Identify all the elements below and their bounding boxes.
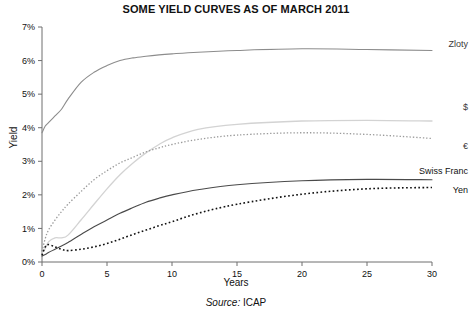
chart-plot-area: 0%1%2%3%4%5%6%7%051015202530 Zloty$€Swis… — [0, 0, 472, 315]
y-tick-label: 5% — [22, 89, 35, 99]
y-tick-label: 4% — [22, 123, 35, 133]
series-line- — [42, 133, 432, 252]
series-labels-group: Zloty$€Swiss FrancYen — [419, 39, 469, 195]
source-prefix: Source: — [206, 297, 240, 308]
y-tick-label: 0% — [22, 257, 35, 267]
series-group — [42, 49, 432, 256]
series-label-currency: € — [463, 141, 468, 151]
y-tick-label: 7% — [22, 22, 35, 32]
axes-group: 0%1%2%3%4%5%6%7%051015202530 — [22, 22, 437, 279]
series-line- — [42, 120, 432, 252]
series-label-swiss-franc: Swiss Franc — [419, 166, 469, 176]
y-tick-label: 6% — [22, 56, 35, 66]
y-tick-label: 1% — [22, 224, 35, 234]
series-label-currency: $ — [463, 102, 468, 112]
y-tick-label: 2% — [22, 190, 35, 200]
series-label-zloty: Zloty — [448, 39, 468, 49]
y-axis-title: Yield — [8, 108, 19, 168]
series-line-swiss-franc — [42, 179, 432, 256]
yield-curves-figure: SOME YIELD CURVES AS OF MARCH 2011 0%1%2… — [0, 0, 472, 315]
x-axis-title: Years — [0, 277, 472, 288]
source-value: ICAP — [243, 297, 266, 308]
series-label-yen: Yen — [453, 185, 468, 195]
y-tick-label: 3% — [22, 156, 35, 166]
source-note: Source: ICAP — [0, 297, 472, 308]
series-line-yen — [42, 187, 432, 255]
